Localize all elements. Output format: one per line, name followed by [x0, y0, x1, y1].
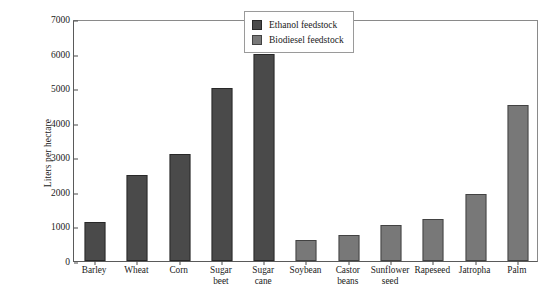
y-axis-tick-mark	[74, 124, 78, 125]
y-axis-tick-label: 3000	[34, 155, 70, 165]
y-axis-tick-mark	[74, 55, 78, 56]
bar-ethanol	[211, 88, 232, 261]
y-axis-tick-mark	[74, 90, 78, 91]
bar-biodiesel	[507, 105, 528, 261]
bar-biodiesel	[381, 225, 402, 261]
y-axis-tick-label: 4000	[34, 120, 70, 130]
bars-layer	[74, 21, 537, 261]
bar-ethanol	[254, 54, 275, 261]
bar-chart-figure: Liters per hectare 010002000300040005000…	[0, 0, 548, 305]
y-axis-tick-mark	[74, 159, 78, 160]
bar-slot	[116, 21, 158, 261]
legend-swatch-ethanol	[252, 20, 262, 30]
y-axis-tick-label: 1000	[34, 224, 70, 234]
bar-slot	[412, 21, 454, 261]
legend-label-ethanol: Ethanol feedstock	[269, 20, 337, 30]
legend-swatch-biodiesel	[252, 35, 262, 45]
bar-biodiesel	[296, 240, 317, 261]
bar-slot	[159, 21, 201, 261]
bar-biodiesel	[423, 219, 444, 261]
bar-slot	[328, 21, 370, 261]
bar-biodiesel	[338, 235, 359, 261]
bar-slot	[285, 21, 327, 261]
bar-slot	[243, 21, 285, 261]
bar-slot	[497, 21, 539, 261]
y-axis-tick-label: 2000	[34, 189, 70, 199]
legend-label-biodiesel: Biodiesel feedstock	[269, 35, 344, 45]
bar-ethanol	[127, 175, 148, 261]
x-axis-labels: BarleyWheatCornSugar beetSugar caneSoybe…	[73, 265, 538, 301]
y-axis-tick-mark	[74, 263, 78, 264]
y-axis-tick-mark	[74, 228, 78, 229]
bar-slot	[74, 21, 116, 261]
plot-area: 01000200030004000500060007000	[73, 20, 538, 262]
legend-item-biodiesel: Biodiesel feedstock	[252, 32, 344, 47]
bar-slot	[201, 21, 243, 261]
y-axis-tick-label: 7000	[34, 16, 70, 26]
bar-ethanol	[85, 222, 106, 261]
x-axis-tick-label: Palm	[488, 265, 546, 276]
legend-item-ethanol: Ethanol feedstock	[252, 17, 344, 32]
chart-legend: Ethanol feedstock Biodiesel feedstock	[244, 11, 354, 53]
y-axis-tick-mark	[74, 193, 78, 194]
bar-slot	[454, 21, 496, 261]
bar-ethanol	[169, 154, 190, 261]
y-axis-tick-label: 6000	[34, 51, 70, 61]
y-axis-tick-label: 5000	[34, 85, 70, 95]
bar-biodiesel	[465, 194, 486, 261]
y-axis-tick-mark	[74, 21, 78, 22]
bar-slot	[370, 21, 412, 261]
